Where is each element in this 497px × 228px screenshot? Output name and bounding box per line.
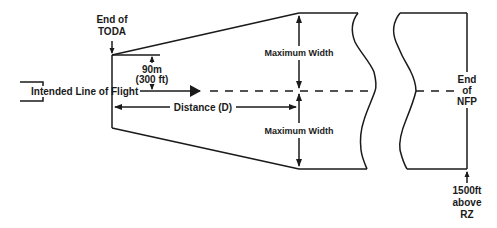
end-of-nfp-label-2: of bbox=[462, 85, 472, 96]
end-of-toda-label-1: End of bbox=[96, 14, 128, 25]
end-of-nfp-label-3: NFP bbox=[457, 96, 477, 107]
distance-label: Distance (D) bbox=[174, 102, 232, 113]
altitude-label-1: 1500ft bbox=[453, 185, 483, 196]
end-of-toda-label-2: TODA bbox=[98, 26, 126, 37]
max-width-upper-label: Maximum Width bbox=[265, 48, 334, 58]
altitude-label-3: RZ bbox=[460, 209, 473, 220]
max-width-lower-label: Maximum Width bbox=[265, 126, 334, 136]
diagram-canvas: End of TODA 90m (300 ft) Intended Line o… bbox=[0, 0, 497, 228]
flight-direction-arrowhead bbox=[190, 85, 201, 97]
nfp-end-section bbox=[394, 13, 467, 169]
intended-line-of-flight-label: Intended Line of Flight bbox=[31, 86, 139, 97]
half-width-label-2: (300 ft) bbox=[136, 74, 169, 85]
altitude-label-2: above bbox=[453, 197, 482, 208]
end-of-nfp-label-1: End bbox=[458, 74, 477, 85]
